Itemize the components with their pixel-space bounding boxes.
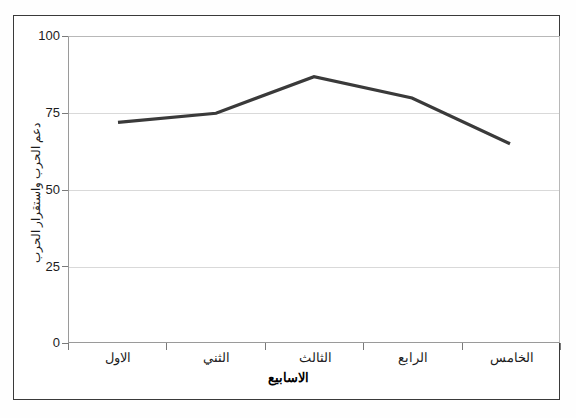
x-tick-mark-4 [462, 343, 463, 350]
x-axis-title: الاسابيع [0, 370, 576, 385]
x-tick-mark-3 [363, 343, 364, 350]
x-tick-mark-5 [560, 343, 561, 350]
x-tick-mark-2 [265, 343, 266, 350]
chart-figure: 100 75 50 25 0 دعم الحرب واستقرار الحرب … [0, 0, 576, 418]
plot-area [68, 36, 560, 343]
x-tick-label-week-3: الثالث [260, 350, 370, 365]
y-tick-label-100: 100 [20, 29, 60, 42]
x-tick-label-week-4: الرابع [358, 350, 468, 365]
y-tick-label-0: 0 [20, 336, 60, 349]
series-line-path [118, 77, 510, 144]
y-axis-title: دعم الحرب واستقرار الحرب [29, 93, 43, 293]
series-line-chart [69, 37, 559, 342]
x-tick-label-week-1: الاول [63, 350, 173, 365]
x-tick-label-week-5: الخامس [457, 350, 567, 365]
x-tick-label-week-2: الثني [161, 350, 271, 365]
x-tick-mark-1 [166, 343, 167, 350]
x-tick-mark-0 [68, 343, 69, 350]
